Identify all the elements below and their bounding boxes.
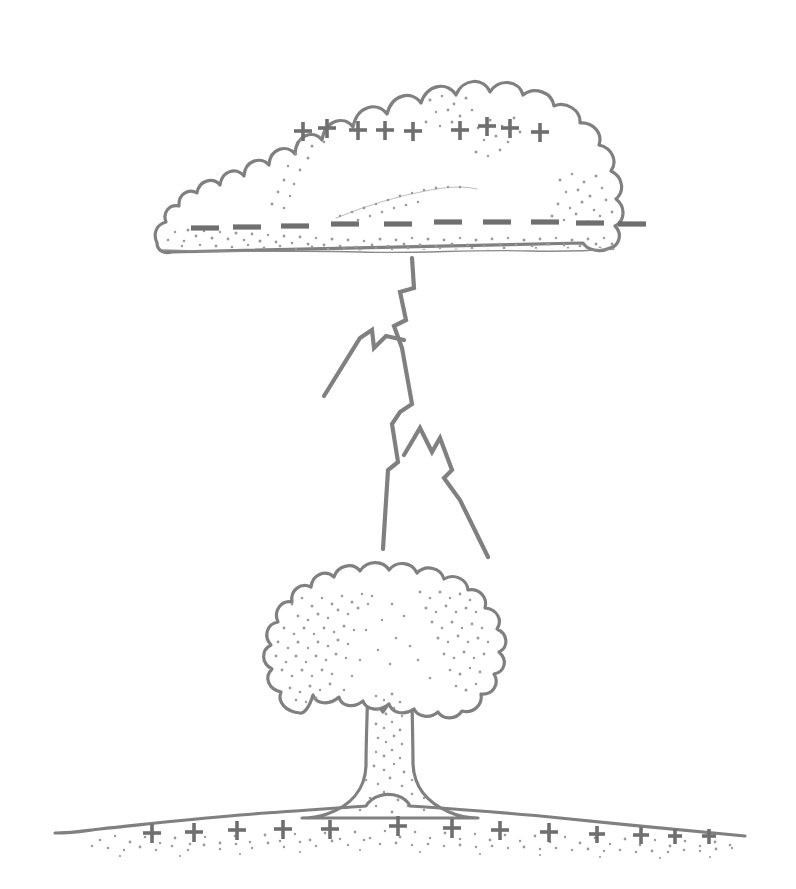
cloud-group [155, 81, 646, 252]
lightning-group [324, 258, 488, 557]
plus-sign [185, 823, 203, 842]
ground-positive-charges [143, 816, 716, 844]
lightning-lower-right-branch [404, 428, 488, 557]
lightning-diagram-svg [0, 0, 796, 889]
lightning-main-channel [383, 258, 414, 549]
tree-group [264, 563, 506, 818]
lightning-upper-left-branch [324, 330, 404, 396]
plus-sign [443, 819, 461, 838]
tree-canopy-outline [264, 563, 506, 718]
plus-sign [143, 824, 161, 843]
illustration-canvas [0, 0, 796, 889]
plus-sign [491, 821, 509, 840]
plus-sign [540, 823, 558, 842]
plus-sign [589, 826, 605, 843]
plus-sign [633, 827, 649, 844]
plus-sign [321, 820, 339, 839]
plus-sign [274, 820, 292, 839]
plus-sign [228, 821, 246, 840]
cloud-outline [155, 81, 623, 252]
